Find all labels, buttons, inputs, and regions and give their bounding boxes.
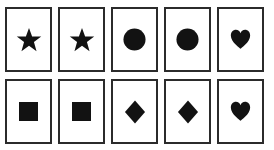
star-icon	[69, 27, 95, 53]
card-row1-col1[interactable]	[5, 7, 52, 72]
diamond-icon	[177, 100, 199, 124]
star-icon	[16, 27, 42, 53]
card-row1-col4[interactable]	[164, 7, 211, 72]
card-row2-col4[interactable]	[164, 79, 211, 144]
heart-icon	[230, 101, 251, 122]
card-grid	[0, 0, 274, 150]
card-row1-col5[interactable]	[217, 7, 264, 72]
diamond-icon	[124, 100, 146, 124]
card-row-bottom	[0, 79, 274, 144]
circle-icon	[123, 28, 146, 51]
card-row2-col2[interactable]	[58, 79, 105, 144]
card-row-top	[0, 7, 274, 72]
card-row2-col1[interactable]	[5, 79, 52, 144]
square-icon	[72, 102, 91, 121]
heart-icon	[230, 29, 251, 50]
card-row2-col3[interactable]	[111, 79, 158, 144]
card-row1-col2[interactable]	[58, 7, 105, 72]
card-row2-col5[interactable]	[217, 79, 264, 144]
circle-icon	[176, 28, 199, 51]
square-icon	[19, 102, 38, 121]
card-row1-col3[interactable]	[111, 7, 158, 72]
